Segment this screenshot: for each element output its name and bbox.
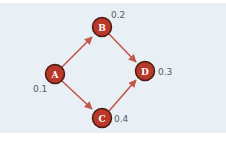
node-b-value: 0.2 (111, 10, 125, 20)
graph-diagram: A 0.1 B 0.2 D 0.3 C 0.4 (0, 0, 226, 146)
node-c-label: C (98, 114, 105, 124)
node-a-label: A (51, 70, 60, 80)
edge-b-d (109, 34, 136, 62)
node-d-value: 0.3 (158, 67, 172, 77)
node-a-value: 0.1 (33, 84, 47, 94)
edge-a-c (62, 81, 92, 109)
edge-a-b (62, 37, 92, 67)
node-c-value: 0.4 (114, 114, 129, 124)
node-b-label: B (98, 23, 106, 33)
node-d[interactable]: D (136, 62, 155, 81)
node-b[interactable]: B (93, 18, 112, 37)
node-a[interactable]: A (46, 65, 65, 84)
edge-c-d (109, 80, 136, 111)
node-c[interactable]: C (93, 109, 112, 128)
node-d-label: D (141, 67, 149, 77)
